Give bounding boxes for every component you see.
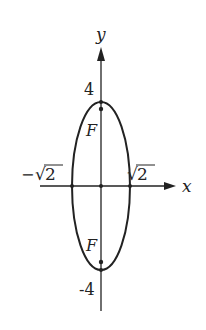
y-tick-top-label: 4	[84, 80, 94, 99]
x-tick-right-value: 2	[137, 164, 148, 184]
y-axis-label: y	[95, 24, 106, 44]
top-vertex-point	[99, 100, 103, 104]
right-vertex-point	[128, 184, 132, 188]
bottom-vertex-point	[99, 268, 103, 272]
upper-focus-label: F	[85, 121, 98, 140]
x-tick-left-minus: −	[21, 165, 34, 184]
lower-focus-label: F	[85, 236, 98, 255]
x-axis-arrow-icon	[164, 182, 176, 190]
lower-focus-point	[99, 260, 103, 264]
x-axis-label: x	[182, 176, 192, 196]
upper-focus-point	[99, 107, 103, 111]
origin-point	[99, 184, 103, 188]
y-tick-bottom-label: -4	[79, 280, 95, 299]
ellipse-diagram: y x 4 -4 F F − √ 2 √ 2	[0, 0, 206, 330]
x-tick-left-value: 2	[45, 164, 56, 184]
y-axis-arrow-icon	[97, 47, 105, 61]
left-vertex-point	[70, 184, 74, 188]
